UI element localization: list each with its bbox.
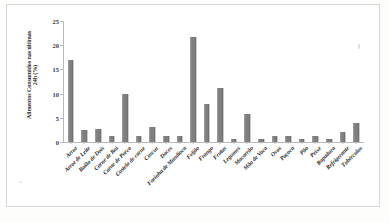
bar-slot [254, 21, 268, 142]
x-axis-tick-mark [97, 142, 98, 144]
x-axis-tick-mark [329, 142, 330, 144]
y-axis-tick-label: 25 [43, 18, 59, 25]
bar-slot [200, 21, 214, 142]
x-axis-tick-mark [342, 142, 343, 144]
bar [150, 127, 156, 142]
bar [204, 104, 210, 142]
bar [245, 114, 251, 142]
x-axis-tick-mark [356, 142, 357, 144]
bar-slot [268, 21, 282, 142]
x-axis-tick-mark [111, 142, 112, 144]
bar-slot [91, 21, 105, 142]
y-axis-tick-mark [60, 45, 63, 46]
y-axis-ticks: 0510152025 [7, 5, 63, 223]
bar [353, 123, 359, 142]
bar-slot [105, 21, 119, 142]
bar-slot [241, 21, 255, 142]
x-axis-tick-mark [288, 142, 289, 144]
x-axis-tick-mark [315, 142, 316, 144]
bar [340, 132, 346, 142]
scan-speck [358, 44, 360, 49]
x-axis-tick-mark [138, 142, 139, 144]
bar-slot [295, 21, 309, 142]
x-axis-tick-mark [179, 142, 180, 144]
bar-slot [78, 21, 92, 142]
bar-slot [349, 21, 363, 142]
y-axis-tick-label: 0 [43, 139, 59, 146]
bar-slot [281, 21, 295, 142]
bar-slot [322, 21, 336, 142]
bar [68, 60, 74, 142]
x-axis-tick-mark [261, 142, 262, 144]
bar [82, 130, 88, 142]
y-axis-tick-label: 15 [43, 66, 59, 73]
bar [95, 129, 101, 142]
bar-slot [186, 21, 200, 142]
bar-slot [159, 21, 173, 142]
x-axis-tick-label: Cuscuz [143, 145, 160, 162]
y-axis-tick-mark [60, 142, 63, 143]
x-axis-tick-mark [125, 142, 126, 144]
bar-series [64, 21, 363, 142]
bar [122, 94, 128, 142]
x-axis-tick-mark [70, 142, 71, 144]
bar-slot [227, 21, 241, 142]
x-axis-tick-mark [247, 142, 248, 144]
bar-slot [336, 21, 350, 142]
y-axis-tick-mark [60, 118, 63, 119]
x-axis-tick-mark [301, 142, 302, 144]
x-axis-tick-mark [220, 142, 221, 144]
x-axis-labels: ArrozArroz de LeiteBaião de DoisCarne de… [64, 145, 363, 223]
bar-slot [214, 21, 228, 142]
x-axis-tick-mark [152, 142, 153, 144]
x-axis-tick-mark [233, 142, 234, 144]
x-axis-line [63, 142, 364, 143]
y-axis-tick-mark [60, 21, 63, 22]
y-axis-tick-label: 20 [43, 42, 59, 49]
figure-canvas: Alimentos Consumidos nas últimas 24h (%)… [0, 0, 389, 223]
x-axis-tick-mark [274, 142, 275, 144]
bar [190, 37, 196, 142]
bar-slot [146, 21, 160, 142]
x-axis-tick-mark [84, 142, 85, 144]
y-axis-tick-label: 5 [43, 114, 59, 121]
bar-slot [64, 21, 78, 142]
x-axis-tick-mark [193, 142, 194, 144]
x-axis-tick-label: Pão [298, 145, 309, 156]
scan-speck [19, 181, 22, 183]
x-axis-tick-mark [165, 142, 166, 144]
y-axis-tick-mark [60, 94, 63, 95]
bar [217, 88, 223, 142]
y-axis-tick-mark [60, 69, 63, 70]
chart-frame: Alimentos Consumidos nas últimas 24h (%)… [6, 4, 380, 207]
y-axis-tick-label: 10 [43, 90, 59, 97]
x-axis-tick-mark [206, 142, 207, 144]
bar-slot [118, 21, 132, 142]
bar-slot [309, 21, 323, 142]
bar-slot [132, 21, 146, 142]
bar-slot [173, 21, 187, 142]
